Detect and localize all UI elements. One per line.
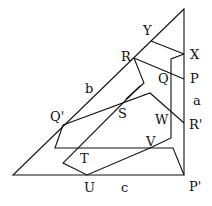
label-Y: Y [143, 24, 152, 37]
label-S: S [118, 107, 127, 120]
label-T: T [80, 152, 89, 165]
geometry-diagram: Y X R P Q b a Q' S W R' T V U c P' [0, 0, 212, 206]
label-Q: Q [158, 72, 169, 85]
path-T-U-V [63, 86, 150, 175]
label-b: b [85, 82, 93, 95]
label-P: P [190, 72, 199, 85]
path-R-S [126, 58, 144, 99]
diagram-lines [0, 0, 212, 206]
label-c: c [121, 181, 128, 194]
label-Rp: R' [189, 118, 202, 131]
segment-YX [151, 41, 184, 54]
outer-triangle [13, 9, 184, 175]
label-Qp: Q' [50, 110, 64, 123]
path-Qp-horizontal [55, 125, 184, 175]
label-W: W [155, 113, 168, 126]
label-X: X [190, 48, 199, 61]
label-U: U [84, 181, 95, 194]
label-V: V [146, 135, 155, 148]
label-Pp: P' [189, 180, 201, 193]
label-R: R [121, 50, 131, 63]
label-a: a [193, 94, 201, 107]
path-X-down [150, 54, 184, 148]
